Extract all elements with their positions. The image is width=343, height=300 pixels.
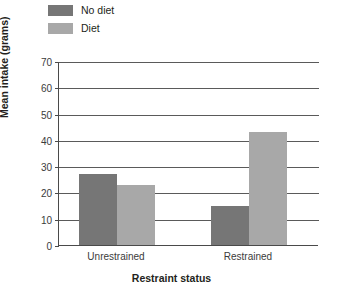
y-tick-mark xyxy=(55,220,59,221)
chart-plot-area: 010203040506070 xyxy=(58,62,318,246)
legend-swatch-diet xyxy=(48,23,73,34)
gridline xyxy=(59,115,319,116)
legend-item-no-diet: No diet xyxy=(48,2,188,19)
x-category-label: Unrestrained xyxy=(66,251,166,262)
y-tick-label: 50 xyxy=(41,109,52,120)
y-tick-label: 30 xyxy=(41,162,52,173)
y-tick-mark xyxy=(55,193,59,194)
bar-unrestrained-diet xyxy=(117,185,155,245)
legend-label-no-diet: No diet xyxy=(81,5,114,16)
y-tick-label: 40 xyxy=(41,135,52,146)
y-axis-title: Mean intake (grams) xyxy=(0,16,10,118)
bar-restrained-diet xyxy=(249,132,287,245)
y-tick-label: 60 xyxy=(41,83,52,94)
y-tick-mark xyxy=(55,115,59,116)
gridline xyxy=(59,62,319,63)
y-tick-label: 0 xyxy=(46,241,52,252)
legend-item-diet: Diet xyxy=(48,20,188,37)
x-category-label: Restrained xyxy=(198,251,298,262)
y-tick-mark xyxy=(55,167,59,168)
y-tick-mark xyxy=(55,62,59,63)
legend-swatch-no-diet xyxy=(48,5,73,16)
y-tick-mark xyxy=(55,246,59,247)
y-tick-label: 20 xyxy=(41,188,52,199)
x-axis-title: Restraint status xyxy=(0,272,343,284)
chart-legend: No diet Diet xyxy=(48,2,188,38)
y-tick-label: 10 xyxy=(41,214,52,225)
y-tick-label: 70 xyxy=(41,57,52,68)
y-tick-mark xyxy=(55,141,59,142)
legend-label-diet: Diet xyxy=(81,23,100,34)
y-tick-mark xyxy=(55,88,59,89)
gridline xyxy=(59,88,319,89)
bar-unrestrained-no-diet xyxy=(79,174,117,245)
bar-restrained-no-diet xyxy=(211,206,249,245)
